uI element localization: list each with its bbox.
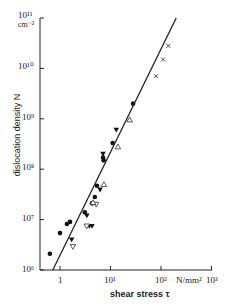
y-unit-label: cm⁻² [18,20,34,29]
data-point-filled-triangle [69,237,75,242]
data-point-open-inverted-triangle [70,244,76,249]
data-point-cross [161,58,165,62]
fit-line [53,18,176,270]
data-point-filled-circle [58,231,63,236]
y-tick-label-10: 10¹⁰ [18,61,34,71]
data-point-filled-circle [68,220,73,225]
x-axis-title: shear stress τ [110,289,170,299]
y-axis-title: dislocation density N [12,80,22,190]
x-tick-label-10: 10¹ [104,275,116,285]
data-point-filled-circle [48,251,53,256]
data-point-cross [166,44,170,48]
data-point-filled-triangle [84,213,90,218]
y-tick-label-6: 10⁶ [22,264,34,274]
data-point-filled-triangle [97,188,103,193]
x-tick-label-100: 10² [155,275,167,285]
data-point-filled-triangle [100,152,106,157]
data-point-cross [154,74,158,78]
y-tick-label-8: 10⁸ [22,162,34,172]
data-point-open-triangle [115,144,121,149]
y-tick-label-11: 10¹¹ [18,10,32,20]
y-tick-label-9: 10⁹ [22,112,34,122]
y-tick-label-7: 10⁷ [22,213,34,223]
data-point-filled-circle [93,195,98,200]
plot-area [0,0,229,307]
x-tick-label-1000: 10³ [206,275,218,285]
data-point-filled-triangle [113,128,119,133]
data-point-open-triangle [101,182,107,187]
x-unit-label: N/mm² [176,275,202,285]
x-tick-label-1: 1 [58,275,63,285]
